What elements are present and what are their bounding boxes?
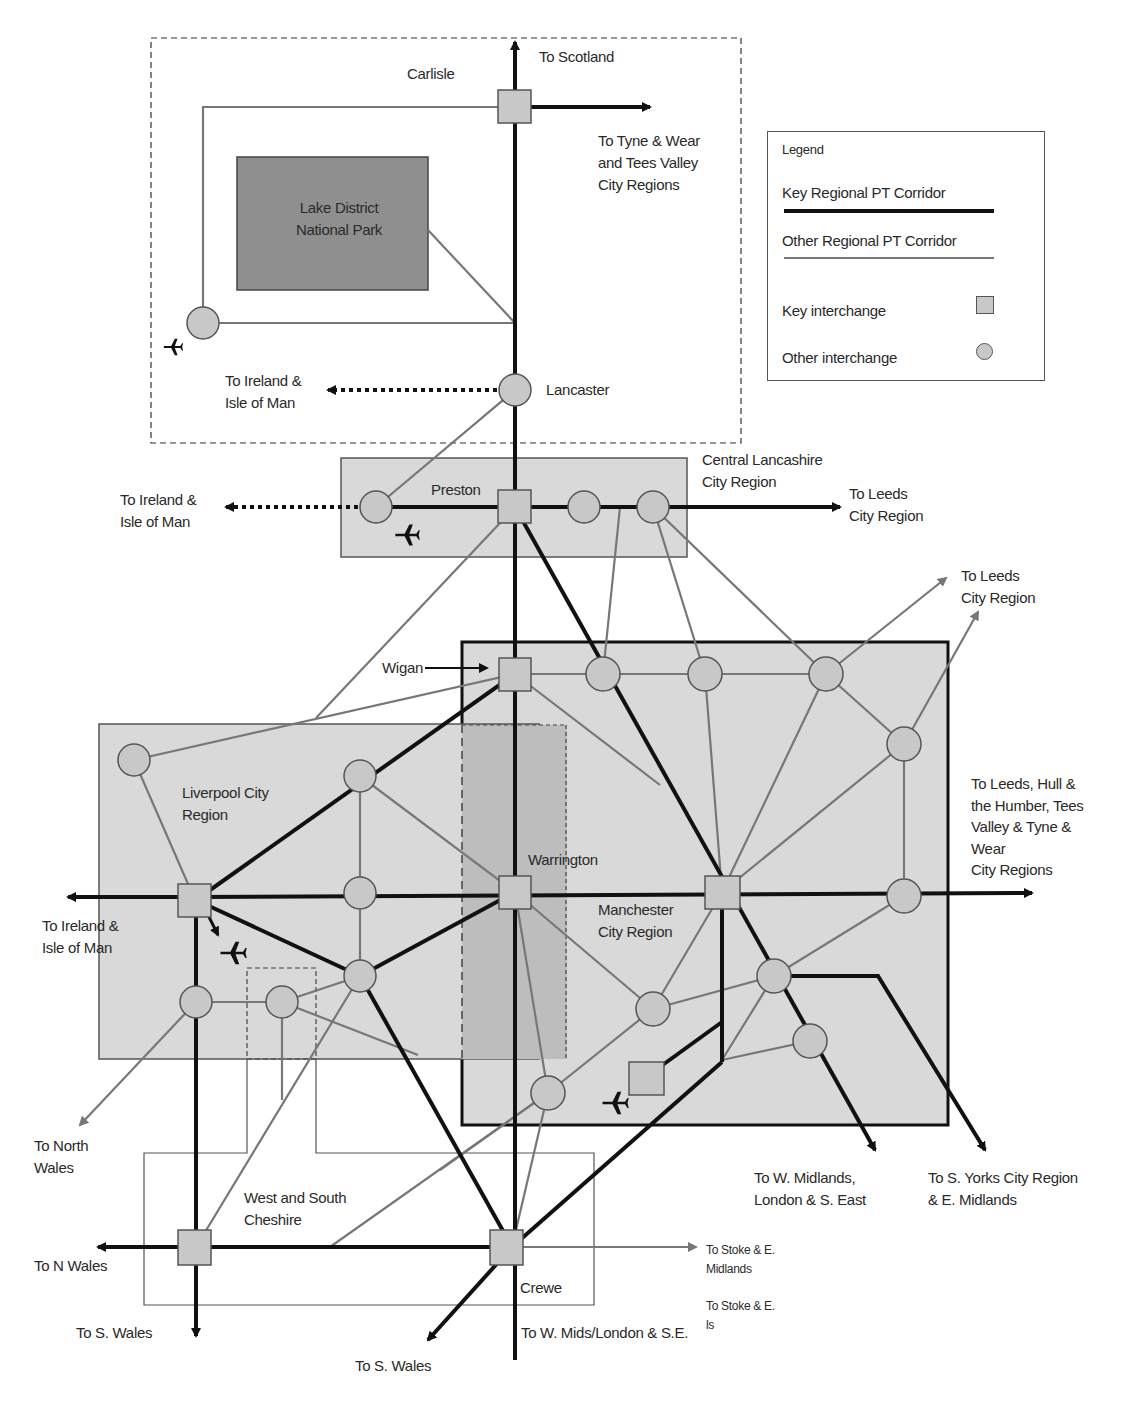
dest-leeds-manchester: To Leeds City Region: [961, 565, 1035, 609]
dest-leeds-preston: To Leeds City Region: [849, 483, 923, 527]
legend-title: Legend: [782, 142, 824, 157]
place-lancaster: Lancaster: [546, 379, 609, 401]
dest-ireland-liverpool: To Ireland & Isle of Man: [42, 915, 118, 959]
dest-stoke-1: To Stoke & E. Midlands: [706, 1241, 775, 1279]
manchester-label: Manchester City Region: [598, 899, 673, 943]
interchange: [887, 727, 921, 761]
interchange-lancaster: [499, 374, 531, 406]
interchange: [187, 307, 219, 339]
interchange: [344, 877, 376, 909]
interchange: [266, 986, 298, 1018]
dest-s-wales-crewe: To S. Wales: [355, 1355, 431, 1377]
lake-district-label: Lake District National Park: [284, 197, 394, 241]
place-wigan: Wigan: [382, 657, 423, 679]
interchange: [344, 760, 376, 792]
legend-other-corridor-label: Other Regional PT Corridor: [782, 232, 957, 249]
dest-s-wales-west: To S. Wales: [76, 1322, 152, 1344]
dest-stoke-2: To Stoke & E. ls: [706, 1297, 775, 1335]
key-corridor-swatch: [784, 209, 994, 213]
key-interchange-preston: [498, 490, 531, 523]
interchange: [360, 491, 392, 523]
legend-key-corridor-label: Key Regional PT Corridor: [782, 184, 945, 201]
place-carlisle: Carlisle: [407, 63, 455, 85]
interchange: [568, 491, 600, 523]
interchange: [180, 986, 212, 1018]
key-interchange-liverpool: [178, 884, 211, 917]
legend-key-interchange-label: Key interchange: [782, 302, 886, 319]
dest-w-midlands-se: To W. Midlands, London & S. East: [754, 1167, 866, 1211]
interchange: [887, 879, 921, 913]
dest-scotland: To Scotland: [539, 46, 614, 68]
key-interchange-crewe: [490, 1230, 523, 1265]
dest-s-yorks: To S. Yorks City Region & E. Midlands: [928, 1167, 1078, 1211]
dest-north-wales: To North Wales: [34, 1135, 88, 1179]
dest-w-mids-london: To W. Mids/London & S.E.: [521, 1322, 688, 1344]
interchange: [637, 491, 669, 523]
key-interchange-wigan: [499, 658, 531, 691]
interchange: [757, 959, 791, 993]
key-interchange-swatch: [976, 296, 994, 314]
interchange: [688, 657, 722, 691]
key-interchange-manchester-airport: [629, 1062, 664, 1095]
legend: Legend Key Regional PT Corridor Other Re…: [767, 131, 1045, 381]
central-lancashire-label: Central Lancashire City Region: [702, 449, 823, 493]
liverpool-label: Liverpool City Region: [182, 782, 269, 826]
dest-ireland-lancaster: To Ireland & Isle of Man: [225, 370, 301, 414]
other-corridor-swatch: [784, 257, 994, 259]
legend-other-interchange-label: Other interchange: [782, 349, 897, 366]
airplane-icon: [164, 339, 183, 356]
interchange: [586, 657, 620, 691]
interchange: [809, 657, 843, 691]
interchange: [118, 744, 150, 776]
west-south-cheshire-label: West and South Cheshire: [244, 1187, 346, 1231]
interchange: [344, 960, 376, 992]
key-interchange-warrington: [499, 876, 531, 909]
interchange: [793, 1024, 827, 1058]
interchange: [636, 992, 670, 1026]
place-preston: Preston: [431, 479, 481, 501]
dest-ireland-preston: To Ireland & Isle of Man: [120, 489, 196, 533]
interchange: [531, 1076, 565, 1110]
place-crewe: Crewe: [520, 1277, 562, 1299]
dest-n-wales: To N Wales: [34, 1255, 107, 1277]
dest-leeds-hull-humber: To Leeds, Hull & the Humber, Tees Valley…: [971, 773, 1084, 881]
other-interchange-swatch: [976, 343, 993, 360]
place-warrington: Warrington: [528, 849, 598, 871]
key-interchange-carlisle: [498, 90, 531, 123]
key-interchange-manchester: [705, 876, 740, 909]
dest-tyne-tees: To Tyne & Wear and Tees Valley City Regi…: [598, 130, 700, 196]
key-interchange-cheshire-west: [178, 1230, 211, 1265]
